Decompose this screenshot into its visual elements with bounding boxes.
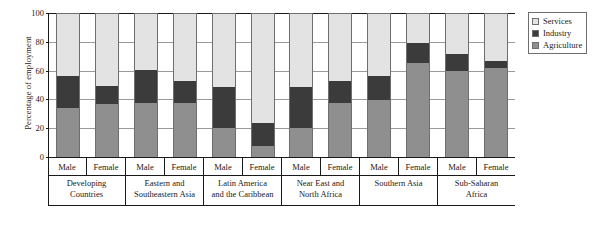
x-axis-sex-label: Female <box>321 158 359 175</box>
bar-slot <box>243 13 282 157</box>
bar-segment-industry[interactable] <box>135 70 157 103</box>
bar-group <box>49 13 127 157</box>
bar-slot <box>282 13 321 157</box>
bar-segment-services[interactable] <box>485 14 507 61</box>
bar-slot <box>476 13 515 157</box>
x-axis-sex-row: MaleFemale <box>48 158 125 176</box>
x-axis-sex-label: Male <box>282 158 321 175</box>
bar-segment-services[interactable] <box>329 14 351 81</box>
x-axis-region-line: and the Caribbean <box>212 189 274 200</box>
x-axis-sex-label: Male <box>126 158 165 175</box>
bar-segment-agriculture[interactable] <box>252 146 274 157</box>
x-axis-region-line: Near East and <box>297 178 345 189</box>
stacked-bar[interactable] <box>445 13 469 157</box>
x-axis-sex-row: MaleFemale <box>126 158 203 176</box>
legend-swatch-agriculture <box>532 42 539 49</box>
plot-area: 100806040200 <box>48 13 515 158</box>
x-axis-sex-label: Female <box>477 158 515 175</box>
bar-segment-industry[interactable] <box>57 76 79 109</box>
x-axis-group: MaleFemaleSouthern Asia <box>360 158 438 205</box>
bar-group <box>204 13 282 157</box>
bar-segment-agriculture[interactable] <box>368 100 390 157</box>
bar-slot <box>204 13 243 157</box>
legend-swatch-industry <box>532 30 539 37</box>
bar-segment-agriculture[interactable] <box>213 128 235 157</box>
bar-segment-services[interactable] <box>407 14 429 43</box>
bar-segment-industry[interactable] <box>446 54 468 71</box>
stacked-bar[interactable] <box>173 13 197 157</box>
bar-segment-services[interactable] <box>96 14 118 86</box>
legend-item-agriculture: Agriculture <box>532 40 582 50</box>
bar-group <box>437 13 515 157</box>
x-axis-region-label: Latin Americaand the Caribbean <box>204 176 281 205</box>
x-axis-sex-label: Male <box>204 158 243 175</box>
bar-segment-services[interactable] <box>368 14 390 75</box>
chart-legend: Services Industry Agriculture <box>528 12 587 54</box>
bar-segment-agriculture[interactable] <box>407 63 429 157</box>
x-axis-region-label: Southern Asia <box>360 176 437 205</box>
bar-segment-services[interactable] <box>213 14 235 87</box>
stacked-bar[interactable] <box>251 13 275 157</box>
bar-slot <box>399 13 438 157</box>
x-axis-region-label: Eastern andSoutheastern Asia <box>126 176 203 205</box>
bar-segment-services[interactable] <box>174 14 196 81</box>
stacked-bar[interactable] <box>134 13 158 157</box>
bars-layer <box>49 13 515 157</box>
x-axis-region-line: Countries <box>70 189 103 200</box>
bar-segment-agriculture[interactable] <box>329 103 351 157</box>
x-axis-region-label: Near East andNorth Africa <box>282 176 359 205</box>
x-axis-sex-label: Female <box>165 158 203 175</box>
bar-segment-agriculture[interactable] <box>446 71 468 157</box>
bar-segment-services[interactable] <box>57 14 79 75</box>
x-axis-region-line: Sub-Saharan <box>455 178 498 189</box>
bar-segment-industry[interactable] <box>329 81 351 102</box>
bar-segment-agriculture[interactable] <box>135 103 157 157</box>
x-axis-region-label: DevelopingCountries <box>48 176 125 205</box>
bar-segment-industry[interactable] <box>213 87 235 128</box>
x-axis-sex-label: Male <box>360 158 399 175</box>
bar-segment-industry[interactable] <box>368 76 390 100</box>
y-tick-label-60: 60 <box>36 66 45 76</box>
bar-segment-industry[interactable] <box>407 43 429 63</box>
bar-segment-agriculture[interactable] <box>96 104 118 157</box>
stacked-bar[interactable] <box>212 13 236 157</box>
stacked-bar[interactable] <box>406 13 430 157</box>
stacked-bar[interactable] <box>95 13 119 157</box>
bar-segment-agriculture[interactable] <box>57 108 79 157</box>
x-axis-sex-label: Male <box>48 158 87 175</box>
bar-slot <box>166 13 205 157</box>
bar-segment-industry[interactable] <box>290 87 312 128</box>
x-axis-region-line: Eastern and <box>145 178 185 189</box>
bar-segment-agriculture[interactable] <box>290 128 312 157</box>
y-tick-label-20: 20 <box>36 123 45 133</box>
bar-group <box>282 13 360 157</box>
stacked-bar[interactable] <box>56 13 80 157</box>
bar-segment-industry[interactable] <box>174 81 196 102</box>
stacked-bar[interactable] <box>367 13 391 157</box>
bar-segment-services[interactable] <box>135 14 157 70</box>
bar-segment-agriculture[interactable] <box>174 103 196 157</box>
bar-segment-services[interactable] <box>252 14 274 123</box>
stacked-bar[interactable] <box>289 13 313 157</box>
x-axis-sex-row: MaleFemale <box>204 158 281 176</box>
legend-item-services: Services <box>532 16 582 26</box>
x-axis-region-line: Southeastern Asia <box>134 189 195 200</box>
x-axis-region-line: Africa <box>466 189 488 200</box>
bar-segment-industry[interactable] <box>485 61 507 68</box>
bar-group <box>360 13 438 157</box>
y-tick-label-80: 80 <box>36 37 45 47</box>
bar-segment-industry[interactable] <box>96 86 118 105</box>
stacked-bar-chart: Percentage of employment 100806040200 Ma… <box>0 0 597 227</box>
stacked-bar[interactable] <box>484 13 508 157</box>
x-axis-region-line: Southern Asia <box>375 178 423 189</box>
bar-segment-services[interactable] <box>290 14 312 87</box>
x-axis-region-label: Sub-SaharanAfrica <box>438 176 515 205</box>
x-axis-group: MaleFemaleEastern andSoutheastern Asia <box>126 158 204 205</box>
bar-segment-industry[interactable] <box>252 123 274 146</box>
bar-slot <box>360 13 399 157</box>
stacked-bar[interactable] <box>328 13 352 157</box>
x-axis-sex-label: Female <box>399 158 437 175</box>
x-axis-sex-row: MaleFemale <box>360 158 437 176</box>
bar-segment-services[interactable] <box>446 14 468 54</box>
bar-segment-agriculture[interactable] <box>485 68 507 157</box>
